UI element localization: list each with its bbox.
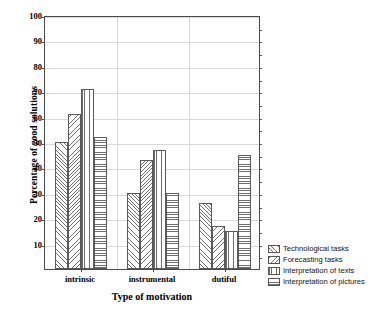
y-minor-tickmark [259,81,262,82]
y-tick-label-70: 70 [14,87,42,97]
plot-area [44,16,260,270]
legend-swatch-vertical-icon [268,267,280,275]
x-tickmark-dutiful [225,269,226,272]
x-tick-label-dutiful: dutiful [212,274,237,284]
y-minor-tickmark [259,68,262,69]
y-minor-tickmark [259,119,262,120]
legend-label: Technological tasks [283,244,349,253]
legend-item-interpretation-of-pictures: Interpretation of pictures [268,276,384,287]
y-tick-label-50: 50 [14,138,42,148]
y-minor-tickmark [259,233,262,234]
y-tick-label-40: 40 [14,163,42,173]
y-minor-tickmark [259,220,262,221]
y-minor-tickmark [259,157,262,158]
bar-intrinsic-forecasting-tasks [68,114,81,269]
x-tickmark-instrumental [153,269,154,272]
y-minor-tickmark [259,30,262,31]
y-tick-label-20: 20 [14,214,42,224]
y-minor-tickmark [259,93,262,94]
y-minor-tickmark [259,144,262,145]
y-tick-label-100: 100 [14,11,42,21]
y-tick-label-90: 90 [14,36,42,46]
bar-dutiful-technological-tasks [199,203,212,269]
y-tick-label-30: 30 [14,189,42,199]
bar-dutiful-forecasting-tasks [212,226,225,269]
y-minor-tickmark [259,169,262,170]
bar-instrumental-forecasting-tasks [140,160,153,269]
legend-swatch-horizontal-icon [268,278,280,286]
x-axis-tick-labels: intrinsicinstrumentaldutiful [44,274,260,288]
y-minor-tickmark [259,106,262,107]
x-axis-title: Type of motivation [44,291,260,302]
y-tick-label-80: 80 [14,62,42,72]
bar-instrumental-technological-tasks [127,193,140,269]
bar-dutiful-interpretation-of-pictures [238,155,251,269]
x-tick-label-instrumental: instrumental [129,274,176,284]
legend-swatch-diagonal-down-icon [268,256,280,264]
y-minor-tickmark [259,55,262,56]
y-tick-label-60: 60 [14,113,42,123]
bar-series-container [45,17,259,269]
y-axis-tick-labels: 102030405060708090100 [12,0,42,315]
legend-swatch-diagonal-up-icon [268,245,280,253]
y-minor-tickmark [259,131,262,132]
x-tickmark-intrinsic [81,269,82,272]
legend: Technological tasksForecasting tasksInte… [268,243,384,287]
bar-instrumental-interpretation-of-texts [153,150,166,269]
y-minor-tickmark [259,195,262,196]
y-minor-tickmark [259,258,262,259]
legend-item-forecasting-tasks: Forecasting tasks [268,254,384,265]
y-minor-tickmark [259,42,262,43]
y-minor-tickmark [259,182,262,183]
bar-intrinsic-interpretation-of-pictures [94,137,107,269]
legend-label: Interpretation of pictures [283,277,365,286]
chart-root: Percentage of good solutions 10203040506… [0,0,385,315]
y-minor-tickmark [259,208,262,209]
legend-item-interpretation-of-texts: Interpretation of texts [268,265,384,276]
x-tick-label-intrinsic: intrinsic [65,274,95,284]
bar-intrinsic-technological-tasks [55,142,68,269]
bar-instrumental-interpretation-of-pictures [166,193,179,269]
legend-item-technological-tasks: Technological tasks [268,243,384,254]
y-minor-tickmark [259,246,262,247]
bar-intrinsic-interpretation-of-texts [81,89,94,269]
legend-label: Interpretation of texts [283,266,354,275]
y-tick-label-10: 10 [14,240,42,250]
legend-label: Forecasting tasks [283,255,343,264]
bar-dutiful-interpretation-of-texts [225,231,238,269]
